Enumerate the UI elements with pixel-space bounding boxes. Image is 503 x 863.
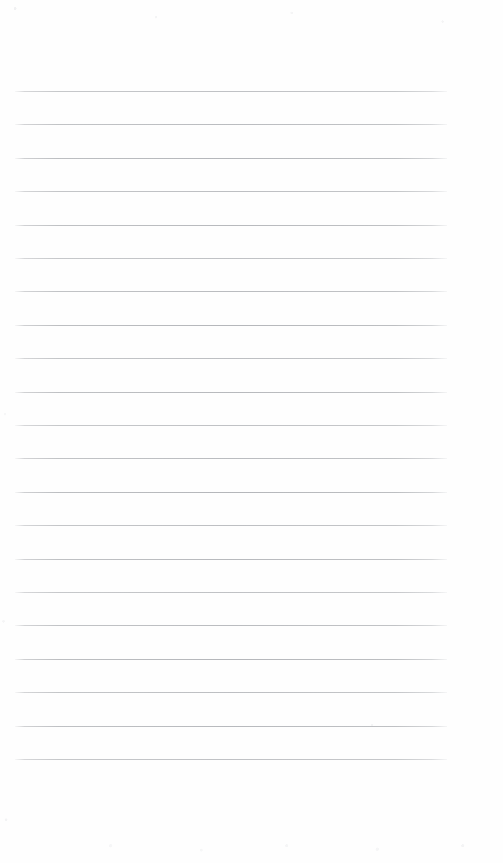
rule-line: [15, 492, 447, 493]
rule-line: [15, 592, 447, 593]
rule-line: [15, 659, 447, 660]
rule-line: [15, 559, 447, 560]
rule-line: [15, 291, 447, 292]
rule-line: [15, 191, 447, 192]
rule-line: [15, 625, 447, 626]
rule-line: [15, 726, 447, 727]
rule-line: [15, 91, 447, 92]
rule-line: [15, 525, 447, 526]
rule-line: [15, 325, 447, 326]
rule-line: [15, 425, 447, 426]
rule-line: [15, 392, 447, 393]
rule-line: [15, 358, 447, 359]
rule-line: [15, 158, 447, 159]
notebook-page: [0, 0, 503, 863]
rule-line: [15, 692, 447, 693]
rule-line: [15, 759, 447, 760]
rule-line: [15, 258, 447, 259]
ruled-lines-group: [0, 0, 503, 863]
rule-line: [15, 458, 447, 459]
rule-line: [15, 124, 447, 125]
rule-line: [15, 225, 447, 226]
